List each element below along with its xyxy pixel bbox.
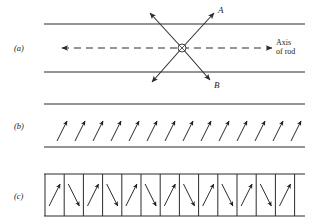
axis-label-line1: Axis: [276, 38, 291, 47]
domain-arrow-b-11: [237, 121, 247, 141]
domain-arrow-c-11-up-right: [241, 184, 252, 206]
domain-arrow-c-2-down-right: [68, 184, 79, 206]
panel-c-label: (c): [14, 191, 24, 201]
domain-arrow-b-4: [111, 121, 121, 141]
domain-arrow-b-9: [201, 121, 211, 141]
domain-arrow-c-3-up-right: [88, 184, 99, 206]
figure-root: (a)Axisof rodAB (b) (c): [0, 0, 315, 224]
ray-upper-left: [150, 13, 182, 48]
domain-arrow-b-14: [291, 121, 301, 141]
domain-arrow-c-9-up-right: [203, 184, 214, 206]
domain-arrow-b-3: [93, 121, 103, 141]
domain-arrow-c-8-down-right: [184, 184, 195, 206]
domain-arrow-c-6-down-right: [145, 184, 156, 206]
domain-arrow-c-5-up-right: [126, 184, 137, 206]
domain-arrow-b-10: [219, 121, 229, 141]
domain-arrow-c-7-up-right: [164, 184, 175, 206]
domain-arrow-b-2: [75, 121, 85, 141]
ray-A: [182, 13, 214, 48]
domain-arrow-b-1: [57, 121, 67, 141]
physics-figure-svg: (a)Axisof rodAB (b) (c): [0, 0, 315, 224]
ray-lower-left: [152, 48, 182, 82]
panel-c: (c): [14, 174, 305, 216]
ray-B: [182, 48, 210, 80]
panel-a: (a)Axisof rodAB: [14, 5, 305, 90]
domain-arrow-b-13: [273, 121, 283, 141]
domain-arrow-b-8: [183, 121, 193, 141]
domain-arrow-c-13-up-right: [280, 184, 291, 206]
ray-label-A: A: [217, 5, 224, 15]
domain-arrow-b-12: [255, 121, 265, 141]
panel-b-label: (b): [14, 121, 24, 131]
domain-arrow-b-7: [165, 121, 175, 141]
panel-b: (b): [14, 104, 305, 147]
panel-a-label: (a): [14, 43, 24, 53]
axis-label-line2: of rod: [276, 47, 295, 56]
domain-arrow-c-10-down-right: [222, 184, 233, 206]
domain-arrow-c-1-up-right: [49, 184, 60, 206]
ray-label-B: B: [214, 80, 220, 90]
domain-arrow-c-4-down-right: [107, 184, 118, 206]
domain-arrow-c-12-down-right: [260, 184, 271, 206]
domain-arrow-b-5: [129, 121, 139, 141]
domain-arrow-b-6: [147, 121, 157, 141]
